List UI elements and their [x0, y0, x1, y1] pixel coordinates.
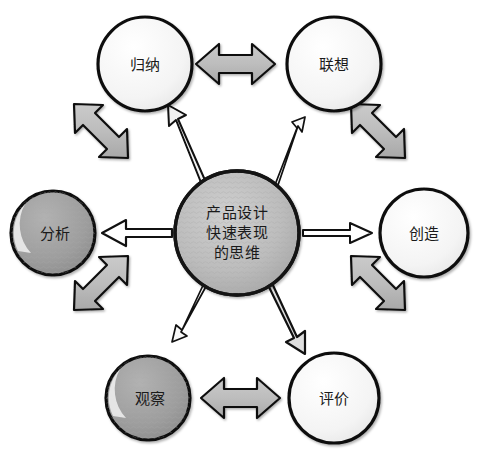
ring-arrow-pingjia-guancha — [201, 378, 280, 418]
diagram-canvas: 归纳 联想 创造 评价 观察 — [0, 0, 479, 451]
spoke-arrow-hub-to-guancha — [172, 279, 209, 342]
node-label-pingjia: 评价 — [319, 390, 350, 408]
node-fenxi[interactable]: 分析 — [11, 191, 95, 275]
hub-node[interactable]: 产品设计 快速表现 的思维 — [175, 171, 299, 295]
spoke-arrow-hub-to-guina — [168, 105, 208, 190]
spoke-arrow-hub-to-fenxi — [102, 220, 172, 246]
node-label-chuangzao: 创造 — [409, 225, 440, 243]
node-label-guina: 归纳 — [130, 56, 161, 74]
node-chuangzao[interactable]: 创造 — [380, 189, 468, 277]
node-guina[interactable]: 归纳 — [98, 17, 192, 111]
ring-arrow-guina-lianxiang — [196, 44, 275, 84]
spoke-arrow-hub-to-chuangzao — [303, 223, 372, 243]
node-guancha[interactable]: 观察 — [106, 356, 190, 440]
ring-arrow-lianxiang-chuangzao — [351, 104, 405, 158]
spoke-arrow-hub-to-lianxiang — [273, 117, 305, 191]
node-pingjia[interactable]: 评价 — [289, 353, 379, 443]
node-label-guancha: 观察 — [135, 390, 166, 408]
hub-label-line-3: 的思维 — [214, 244, 261, 262]
hub-label-line-1: 产品设计 — [206, 204, 268, 222]
node-label-lianxiang: 联想 — [319, 56, 350, 74]
node-lianxiang[interactable]: 联想 — [287, 17, 381, 111]
node-label-fenxi: 分析 — [40, 225, 71, 243]
spoke-arrow-hub-to-pingjia — [267, 281, 305, 354]
ring-arrow-fenxi-guina — [74, 104, 128, 158]
hub-label-line-2: 快速表现 — [206, 224, 268, 242]
mind-map-diagram: 归纳 联想 创造 评价 观察 — [0, 0, 479, 451]
